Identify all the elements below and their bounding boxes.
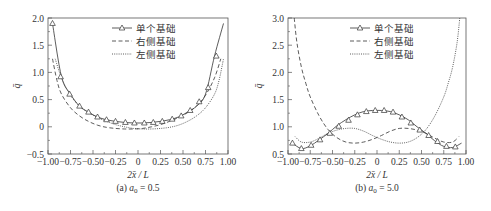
legend: 单个基础右侧基础左侧基础 (350, 23, 414, 60)
triangle-marker-icon (50, 20, 56, 25)
triangle-marker-icon (381, 107, 387, 112)
triangle-marker-icon (178, 113, 184, 118)
subplot-caption: (a) a0 = 0.5 (116, 183, 159, 195)
x-axis-label: 2x̄ / L (127, 170, 149, 180)
legend-label: 单个基础 (136, 23, 176, 34)
y-tick-label: 2.0 (32, 14, 44, 24)
figure: −1.00−0.75−0.50−0.2500.250.500.751.00−0.… (0, 0, 491, 211)
x-tick-label: −0.25 (344, 157, 366, 167)
y-tick-label: 0.5 (272, 150, 284, 160)
series-line (53, 59, 221, 129)
triangle-marker-icon (444, 143, 450, 148)
legend-label: 左侧基础 (374, 49, 414, 60)
x-tick-label: 0.50 (413, 157, 430, 167)
legend-label: 右侧基础 (374, 36, 414, 47)
triangle-marker-icon (119, 25, 125, 30)
x-tick-label: −0.75 (60, 157, 82, 167)
y-tick-label: 1.5 (272, 95, 284, 105)
x-axis-label: 2x̄ / L (366, 170, 388, 180)
triangle-marker-icon (58, 74, 64, 79)
y-tick-label: 2.0 (272, 68, 284, 78)
x-tick-label: −0.50 (322, 157, 344, 167)
subplot-caption: (b) a0 = 5.0 (355, 183, 399, 195)
y-tick-label: 1.0 (272, 122, 284, 132)
triangle-marker-icon (67, 91, 73, 96)
legend-label: 单个基础 (374, 23, 414, 34)
x-tick-label: −0.75 (299, 157, 321, 167)
x-tick-label: −0.50 (82, 157, 104, 167)
triangle-marker-icon (290, 140, 296, 145)
triangle-marker-icon (86, 109, 92, 114)
x-tick-label: 1.00 (458, 157, 475, 167)
y-tick-label: 2.5 (272, 41, 284, 51)
y-tick-label: 1.5 (32, 41, 44, 51)
x-tick-label: 0 (136, 157, 141, 167)
y-tick-label: 1.0 (32, 68, 44, 78)
x-tick-label: 0 (375, 157, 380, 167)
chart-panel-b: −1.00−0.75−0.50−0.2500.250.500.751.000.5… (253, 14, 475, 196)
x-tick-label: 0.75 (435, 157, 452, 167)
series-line (55, 59, 223, 129)
x-tick-label: 0.25 (391, 157, 408, 167)
triangle-marker-icon (408, 120, 414, 125)
legend-label: 左侧基础 (136, 49, 176, 60)
x-tick-label: 0.25 (152, 157, 169, 167)
legend-label: 右侧基础 (136, 36, 176, 47)
chart-panel-a: −1.00−0.75−0.50−0.2500.250.500.751.00−0.… (11, 14, 237, 196)
triangle-marker-icon (453, 144, 459, 149)
triangle-marker-icon (308, 142, 314, 147)
triangle-marker-icon (357, 25, 363, 30)
x-tick-label: −0.25 (105, 157, 127, 167)
y-axis-label: q̄ (11, 83, 22, 88)
triangle-marker-icon (205, 85, 211, 90)
x-tick-label: 0.50 (175, 157, 192, 167)
triangle-marker-icon (132, 120, 138, 125)
legend: 单个基础右侧基础左侧基础 (112, 23, 176, 60)
x-tick-label: 0.75 (197, 157, 214, 167)
y-tick-label: −0.5 (27, 150, 44, 160)
y-tick-label: 3.0 (272, 14, 284, 24)
triangle-marker-icon (346, 117, 352, 122)
y-tick-label: 0 (39, 122, 44, 132)
x-tick-label: 1.00 (220, 157, 237, 167)
triangle-marker-icon (327, 130, 333, 135)
y-axis-label: q̄ (253, 83, 264, 88)
y-tick-label: 0.5 (32, 95, 44, 105)
